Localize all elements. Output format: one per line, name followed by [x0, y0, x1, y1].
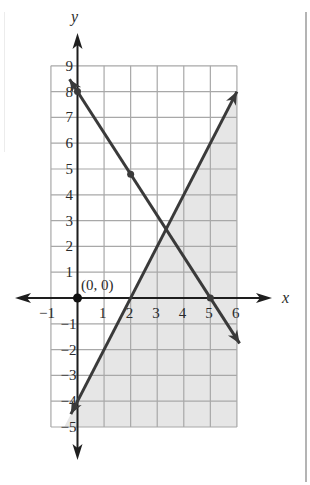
y-tick-label: 4 [66, 187, 74, 203]
y-tick-label: 6 [66, 135, 74, 151]
x-tick-label: 3 [152, 305, 160, 321]
y-axis-label: y [69, 8, 79, 26]
x-tick-label: 1 [99, 305, 107, 321]
x-axis-label: x [281, 289, 289, 306]
x-tick-label: 5 [205, 305, 213, 321]
y-tick-label: 3 [66, 213, 74, 229]
y-tick-label: 7 [66, 109, 74, 125]
coordinate-plane: −1123456987654321−1−2−3−4−5 x y (0, 0) [0, 0, 310, 485]
y-tick-label: −1 [61, 316, 77, 332]
y-tick-label: 2 [66, 238, 74, 254]
x-tick-label: −1 [39, 305, 55, 321]
point-2-4.8 [127, 171, 134, 178]
x-tick-label: 6 [232, 305, 240, 321]
y-tick-label: −3 [61, 367, 77, 383]
origin-point [73, 294, 82, 303]
y-tick-label: −2 [61, 342, 77, 358]
point-0-8 [74, 88, 81, 95]
y-tick-label: −5 [61, 419, 77, 435]
x-tick-label: 4 [179, 305, 187, 321]
origin-label: (0, 0) [81, 277, 114, 294]
y-tick-label: 5 [66, 161, 74, 177]
y-tick-label: 1 [66, 264, 74, 280]
y-tick-label: 9 [66, 58, 74, 74]
point-5-0 [207, 295, 214, 302]
